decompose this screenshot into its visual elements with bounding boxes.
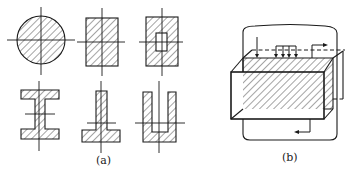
caption-a: (a) xyxy=(96,154,111,167)
panel-a xyxy=(7,7,185,153)
circle-section xyxy=(7,7,75,75)
caption-b: (b) xyxy=(282,151,298,164)
flow-arrow-bottom xyxy=(294,119,310,134)
hollow-rectangle-section xyxy=(139,8,183,76)
load-arrow-left xyxy=(255,37,259,58)
panel-b xyxy=(231,25,345,141)
i-beam-section xyxy=(21,81,59,151)
distributed-load-arrows xyxy=(274,46,298,58)
inverted-t-section xyxy=(82,81,120,153)
u-channel-section xyxy=(135,81,185,153)
rectangle-section xyxy=(77,8,125,76)
